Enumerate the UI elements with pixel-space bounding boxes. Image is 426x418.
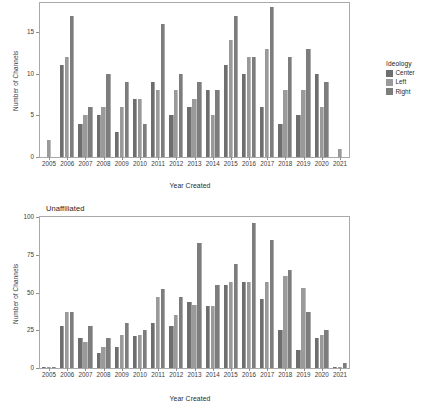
bar <box>211 306 215 368</box>
legend-label: Left <box>396 79 407 85</box>
bar <box>161 24 165 157</box>
bar <box>65 57 69 157</box>
legend-swatch-icon <box>386 88 393 95</box>
y-tick-label: 15 <box>0 29 34 35</box>
bar <box>224 65 228 157</box>
y-tick-label: 10 <box>0 71 34 77</box>
bar <box>278 124 282 157</box>
y-tick-mark <box>36 255 39 256</box>
bar <box>115 132 119 157</box>
y-tick-mark <box>36 293 39 294</box>
bar <box>97 353 101 368</box>
bar <box>143 124 147 157</box>
bar <box>296 350 300 368</box>
bar <box>42 367 46 369</box>
bar <box>288 57 292 157</box>
bar <box>283 276 287 368</box>
bar <box>101 107 105 157</box>
chart-panel-affiliated: Number of Channels Year Created Ideology… <box>0 0 426 200</box>
bar <box>156 90 160 157</box>
bar <box>65 312 69 368</box>
bar <box>106 74 110 157</box>
bar <box>169 326 173 368</box>
bar <box>125 323 129 368</box>
bar <box>138 99 142 157</box>
bar <box>125 82 129 157</box>
bar <box>169 115 173 157</box>
bar <box>115 347 119 368</box>
bar <box>143 330 147 368</box>
bar <box>138 335 142 368</box>
bar <box>301 288 305 368</box>
bar <box>187 302 191 368</box>
y-axis-label-top: Number of Channels <box>12 51 19 111</box>
legend-top: Ideology CenterLeftRight <box>386 60 415 97</box>
x-tick-label: 2021 <box>325 161 355 167</box>
bar <box>234 16 238 158</box>
bar <box>156 297 160 368</box>
plot-area-top <box>39 2 350 158</box>
bar <box>234 264 238 368</box>
bar <box>60 326 64 368</box>
y-tick-label: 0 <box>0 365 34 371</box>
panel-title-unaffiliated: Unaffiliated <box>46 204 85 213</box>
y-tick-mark <box>36 32 39 33</box>
bar <box>247 57 251 157</box>
bar <box>260 107 264 157</box>
bar <box>70 16 74 158</box>
bar <box>288 270 292 368</box>
legend-title: Ideology <box>386 60 415 67</box>
bar <box>324 330 328 368</box>
bar <box>215 285 219 368</box>
x-axis-label-top: Year Created <box>170 182 211 189</box>
x-axis-label-bottom: Year Created <box>170 395 211 402</box>
bar <box>197 243 201 368</box>
bar <box>270 7 274 157</box>
bar <box>252 223 256 368</box>
legend-entries: CenterLeftRight <box>386 70 415 96</box>
x-tick-label: 2021 <box>325 372 355 378</box>
bar <box>306 312 310 368</box>
bar <box>120 335 124 368</box>
bar <box>215 90 219 157</box>
bar <box>260 299 264 368</box>
bar <box>101 347 105 368</box>
y-tick-label: 100 <box>0 214 34 220</box>
bar <box>270 240 274 368</box>
bar <box>211 115 215 157</box>
bar <box>133 336 137 368</box>
bar <box>265 282 269 368</box>
bar <box>187 107 191 157</box>
bar <box>133 99 137 157</box>
chart-panel-unaffiliated: Unaffiliated Number of Channels Year Cre… <box>0 200 426 418</box>
bar <box>265 49 269 157</box>
bar <box>242 74 246 157</box>
bar <box>52 367 56 369</box>
bar <box>247 282 251 368</box>
y-tick-label: 50 <box>0 290 34 296</box>
bar <box>343 363 347 368</box>
legend-label: Center <box>396 70 415 76</box>
bar <box>252 57 256 157</box>
bar <box>315 74 319 157</box>
bar <box>229 282 233 368</box>
bar <box>306 49 310 157</box>
legend-swatch-icon <box>386 79 393 86</box>
bar <box>97 115 101 157</box>
bar <box>206 90 210 157</box>
bar <box>197 82 201 157</box>
legend-item-right: Right <box>386 88 415 96</box>
bar <box>242 282 246 368</box>
bar <box>283 90 287 157</box>
y-tick-label: 0 <box>0 154 34 160</box>
bar <box>47 140 51 157</box>
y-tick-mark <box>36 217 39 218</box>
bar <box>179 74 183 157</box>
bar <box>120 107 124 157</box>
bar <box>78 338 82 368</box>
bar <box>192 99 196 157</box>
bar <box>174 90 178 157</box>
bar <box>224 285 228 368</box>
bar <box>324 82 328 157</box>
figure-root: Number of Channels Year Created Ideology… <box>0 0 426 418</box>
